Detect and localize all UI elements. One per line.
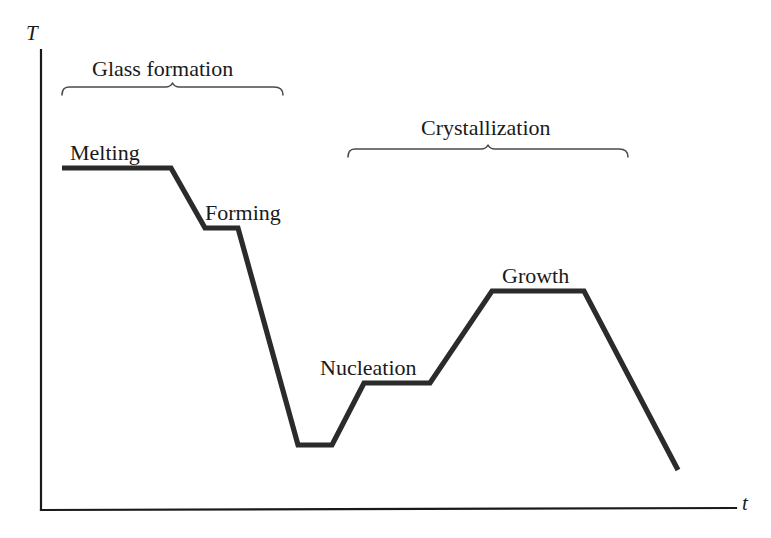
growth-label: Growth <box>502 263 569 288</box>
melting-label: Melting <box>70 140 140 165</box>
glass-formation-label: Glass formation <box>92 56 233 81</box>
x-axis-label: t <box>742 491 749 515</box>
forming-label: Forming <box>205 200 281 225</box>
y-axis-label: T <box>26 21 39 45</box>
glass-formation-brace <box>62 83 283 95</box>
temperature-profile-line <box>62 168 678 470</box>
x-axis-line <box>41 508 736 510</box>
temperature-time-diagram: T t Glass formation Crystallization Melt… <box>0 0 771 538</box>
nucleation-label: Nucleation <box>320 355 417 380</box>
crystallization-label: Crystallization <box>421 115 551 140</box>
diagram-canvas: T t Glass formation Crystallization Melt… <box>0 0 771 538</box>
crystallization-brace <box>348 145 628 157</box>
